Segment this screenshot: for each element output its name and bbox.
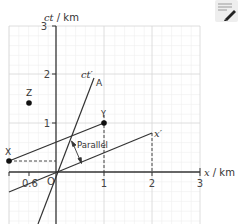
- event-y-label: Y: [100, 110, 106, 119]
- ct-tick-2: 2: [44, 69, 50, 80]
- event-x-dot: [6, 158, 12, 164]
- event-z-dot: [26, 100, 32, 106]
- x-tick-1: 1: [101, 178, 107, 189]
- notes-edit-icon: [215, 0, 238, 22]
- parallel-label: Parallel: [77, 140, 108, 150]
- x-tick-2: 2: [149, 178, 155, 189]
- event-x-label: X: [5, 147, 11, 157]
- event-a-label: A: [96, 78, 103, 88]
- event-z-label: Z: [26, 88, 32, 98]
- spacetime-diagram: 3 2 1 0.6 1 2 3 O ct / km x / km ct′ x′ …: [0, 0, 238, 224]
- x-tick-3: 3: [197, 178, 203, 189]
- ct-axis-label: ct / km: [44, 12, 79, 23]
- x-axis-label: x / km: [204, 167, 235, 178]
- notes-edit-button[interactable]: [215, 0, 238, 22]
- ct-tick-1: 1: [44, 118, 50, 129]
- x-prime-label: x′: [154, 128, 163, 139]
- event-y-dot: [101, 120, 107, 126]
- ct-prime-label: ct′: [81, 69, 94, 80]
